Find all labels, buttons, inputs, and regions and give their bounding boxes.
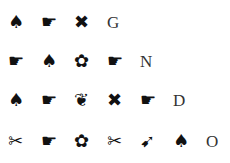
pointing-hand-icon: ☛ <box>140 91 156 109</box>
cipher-row-1: ♠ ☛ ✖ G <box>8 10 140 34</box>
row-letter: N <box>140 53 152 70</box>
pointing-hand-icon: ☛ <box>41 13 57 31</box>
cipher-row-4: ✂ ☛ ✿ ✂ ➹ ♠ O <box>8 129 230 153</box>
cipher-row-3: ♠ ☛ ❦ ✖ ☛ D <box>8 88 206 112</box>
spade-icon: ♠ <box>8 91 24 109</box>
pointing-hand-icon: ☛ <box>107 52 123 70</box>
scissors-icon: ✂ <box>107 132 122 150</box>
pointing-hand-icon: ☛ <box>41 91 57 109</box>
pointing-hand-icon: ☛ <box>8 52 24 70</box>
heavy-x-icon: ✖ <box>74 13 89 31</box>
row-letter: D <box>173 92 185 109</box>
spade-icon: ♠ <box>41 52 57 70</box>
row-letter: O <box>206 133 218 150</box>
floral-heart-icon: ❦ <box>74 91 89 109</box>
spade-icon: ♠ <box>8 13 24 31</box>
scissors-icon: ✂ <box>8 132 23 150</box>
row-letter: G <box>107 14 119 31</box>
heavy-x-icon: ✖ <box>107 91 122 109</box>
cipher-row-2: ☛ ♠ ✿ ☛ N <box>8 49 173 73</box>
pointing-hand-icon: ☛ <box>41 132 57 150</box>
feathered-arrow-icon: ➹ <box>140 132 155 150</box>
flower-icon: ✿ <box>74 132 89 150</box>
flower-icon: ✿ <box>74 52 89 70</box>
spade-icon: ♠ <box>173 132 189 150</box>
